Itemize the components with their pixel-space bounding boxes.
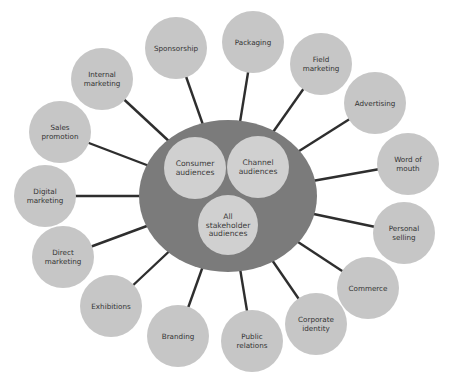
audience-consumer-label: Consumeraudiences <box>176 159 216 177</box>
node-packaging: Packaging <box>222 11 284 73</box>
node-public-relations: Publicrelations <box>221 310 283 372</box>
node-corporate-identity: Corporateidentity <box>285 293 347 355</box>
audience-consumer: Consumeraudiences <box>164 137 226 199</box>
node-exhibitions: Exhibitions <box>80 275 142 337</box>
node-advertising: Advertising <box>344 72 406 134</box>
node-digital-marketing: Digitalmarketing <box>14 165 76 227</box>
node-personal-selling: Personalselling <box>373 202 435 264</box>
node-advertising-label: Advertising <box>355 99 396 108</box>
node-sales-promotion: Salespromotion <box>29 101 91 163</box>
node-sponsorship-label: Sponsorship <box>154 44 198 53</box>
node-packaging-label: Packaging <box>235 38 271 47</box>
node-word-of-mouth-label: Word ofmouth <box>394 155 422 173</box>
node-commerce: Commerce <box>337 257 399 319</box>
node-corporate-identity-label: Corporateidentity <box>298 315 335 333</box>
node-exhibitions-label: Exhibitions <box>91 302 131 311</box>
audience-channel-label: Channelaudiences <box>239 158 278 176</box>
node-internal-marketing: Internalmarketing <box>71 48 133 110</box>
node-direct-marketing: Directmarketing <box>32 226 94 288</box>
node-internal-marketing-label: Internalmarketing <box>84 70 121 88</box>
node-sponsorship: Sponsorship <box>145 17 207 79</box>
node-branding-label: Branding <box>162 332 195 341</box>
node-field-marketing: Fieldmarketing <box>290 33 352 95</box>
node-word-of-mouth: Word ofmouth <box>377 133 439 195</box>
audience-all-stakeholder: Allstakeholderaudiences <box>198 195 258 255</box>
node-personal-selling-label: Personalselling <box>389 224 420 242</box>
node-commerce-label: Commerce <box>348 284 388 293</box>
marketing-communications-hub-diagram: ConsumeraudiencesChannelaudiencesAllstak… <box>0 0 450 380</box>
audience-channel: Channelaudiences <box>227 136 289 198</box>
node-branding: Branding <box>147 305 209 367</box>
